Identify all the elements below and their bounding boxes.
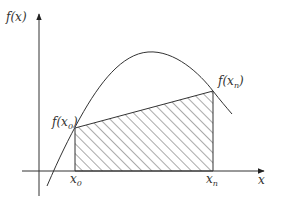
f-x0-label: f(x0): [51, 115, 78, 131]
x0-label: x0: [70, 172, 82, 188]
f-xn-label: f(xn): [217, 74, 244, 90]
xn-label: xn: [206, 172, 218, 188]
x-axis-label: x: [258, 173, 265, 187]
trapezoid-rule-diagram: f(x) x x0 xn f(x0) f(xn): [0, 0, 283, 206]
diagram-svg: f(x) x x0 xn f(x0) f(xn): [0, 0, 283, 206]
y-axis-label: f(x): [5, 10, 27, 24]
shaded-trapezoid: [75, 91, 213, 171]
